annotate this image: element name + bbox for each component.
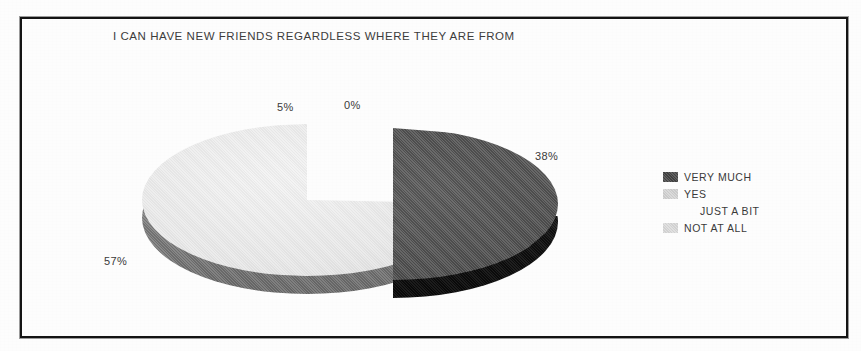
chart-title: I CAN HAVE NEW FRIENDS REGARDLESS WHERE … xyxy=(113,30,515,42)
legend-item-yes[interactable]: YES xyxy=(663,186,813,202)
scanned-page: I CAN HAVE NEW FRIENDS REGARDLESS WHERE … xyxy=(0,0,861,351)
pie-chart xyxy=(128,110,548,305)
legend-swatch-icon-not-at-all xyxy=(663,223,678,233)
chart-legend: VERY MUCH YES JUST A BIT NOT AT ALL xyxy=(663,169,813,237)
legend-item-just-a-bit[interactable]: JUST A BIT xyxy=(663,203,813,219)
legend-label-not-at-all: NOT AT ALL xyxy=(684,222,747,234)
data-label-just-a-bit: 5% xyxy=(277,101,294,113)
legend-swatch-icon-just-a-bit xyxy=(663,206,678,216)
legend-label-just-a-bit: JUST A BIT xyxy=(700,205,760,217)
legend-swatch-icon-yes xyxy=(663,189,678,199)
data-label-not-at-all: 0% xyxy=(344,99,361,111)
legend-label-very-much: VERY MUCH xyxy=(684,171,752,183)
data-label-very-much: 38% xyxy=(535,150,558,162)
legend-item-very-much[interactable]: VERY MUCH xyxy=(663,169,813,185)
data-label-yes: 57% xyxy=(104,255,127,267)
legend-swatch-icon-very-much xyxy=(663,172,678,182)
legend-label-yes: YES xyxy=(684,188,707,200)
legend-item-not-at-all[interactable]: NOT AT ALL xyxy=(663,220,813,236)
